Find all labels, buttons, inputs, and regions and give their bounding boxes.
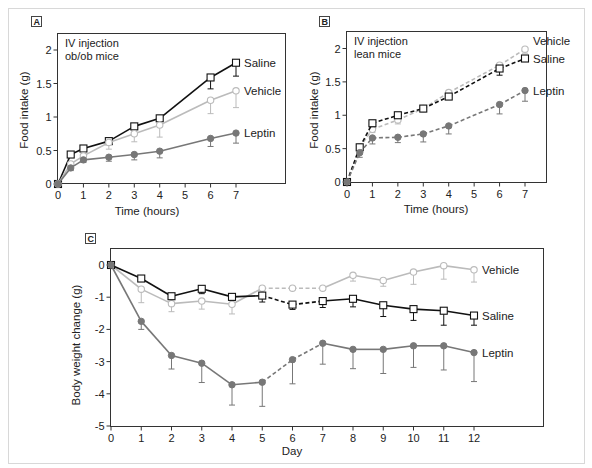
panel-b-saline-point	[394, 112, 401, 119]
panel-c-ticks: 01234567891011120-1-2-3-4-5	[95, 259, 480, 444]
panel-a-vehicle-point	[207, 97, 213, 103]
panel-b-saline-line-segment	[449, 69, 500, 97]
panel-a-leptin-point	[131, 151, 137, 157]
panel-b-legend-saline: Saline	[533, 53, 565, 65]
panel-a-leptin-point	[106, 154, 112, 160]
panel-a-legend-vehicle: Vehicle	[244, 85, 281, 97]
panel-c-ytick-label: -2	[95, 323, 105, 335]
panel-c-saline-point	[289, 301, 296, 308]
panel-c-vehicle-point	[168, 300, 174, 306]
panel-c-ytick-label: -5	[95, 420, 105, 432]
panel-a-saline-point	[131, 123, 138, 130]
panel-a-xtick-label: 7	[233, 189, 239, 201]
panel-a-ylabel: Food intake (g)	[18, 71, 30, 149]
panel-c-saline-line-segment	[414, 309, 444, 311]
panel-b-saline-point	[522, 55, 529, 62]
panel-c-vehicle-line-segment	[414, 266, 444, 272]
panel-a-leptin-line-segment	[160, 138, 211, 151]
panel-c-leptin-line-segment	[262, 360, 292, 383]
panel-b-ytick-label: 1	[334, 109, 340, 121]
panel-c-saline-point	[198, 285, 205, 292]
panel-a-saline-point	[67, 151, 74, 158]
panel-c-leptin-point	[138, 318, 144, 324]
panel-c-saline-point	[380, 302, 387, 309]
panel-a-xtick-label: 3	[131, 189, 137, 201]
panel-b-leptin-point	[395, 134, 401, 140]
panel-c-xtick-label: 5	[259, 432, 265, 444]
panel-b-leptin-point	[344, 179, 350, 185]
panel-b-leptin-point	[369, 135, 375, 141]
panel-c-xlabel: Day	[282, 445, 303, 457]
panel-a-leptin-line-segment	[211, 133, 236, 138]
panel-b-xtick-label: 2	[395, 188, 401, 200]
panel-b-leptin-line-segment	[347, 153, 360, 182]
panel-c-vehicle-point	[199, 298, 205, 304]
panel-c-vehicle-point	[441, 262, 447, 268]
panel-c-ytick-label: 0	[98, 259, 104, 271]
panel-b-xtick-label: 0	[344, 188, 350, 200]
panel-c-xtick-label: 1	[138, 432, 144, 444]
panel-b-ylabel: Food intake (g)	[308, 71, 320, 149]
panel-c-saline-line-segment	[202, 289, 232, 297]
panel-a-leptin-point	[157, 148, 163, 154]
panel-c-vehicle-point	[138, 286, 144, 292]
panel-c-legend-vehicle: Vehicle	[482, 264, 519, 276]
panel-c-leptin-line-segment	[232, 382, 262, 385]
panel-a-vehicle-point	[157, 122, 163, 128]
panel-c-saline-point	[440, 307, 447, 314]
panel-a-xtick-label: 6	[208, 189, 214, 201]
panel-a-series: SalineVehicleLeptin	[55, 57, 282, 188]
panel-c-xtick-label: 3	[199, 432, 205, 444]
panel-a-xtick-label: 5	[182, 189, 188, 201]
panel-b-saline-point	[420, 105, 427, 112]
panel-a-series-leptin: Leptin	[55, 127, 276, 187]
panel-c-legend-leptin: Leptin	[482, 347, 513, 359]
panel-b-series-leptin: Leptin	[344, 85, 565, 186]
panel-b-xtick-label: 7	[522, 188, 528, 200]
panel-b-ytick-label: 0.5	[325, 143, 340, 155]
panel-b-leptin-line-segment	[372, 137, 397, 138]
panel-b-leptin-point	[420, 131, 426, 137]
panel-a-vehicle-point	[131, 131, 137, 137]
panel-b-annotation-line2: lean mice	[354, 48, 401, 60]
panel-b-legend-leptin: Leptin	[533, 85, 564, 97]
panel-c-leptin-line-segment	[172, 355, 202, 363]
panel-c-saline-line-segment	[172, 289, 202, 296]
panel-b-xtick-label: 4	[446, 188, 452, 200]
panel-c-leptin-point	[471, 349, 477, 355]
panel-b-series-saline: Saline	[344, 53, 565, 186]
panel-a-vehicle-line-segment	[211, 91, 236, 100]
panel-c-leptin-line-segment	[444, 346, 474, 353]
panel-c-vehicle-line-segment	[202, 301, 232, 304]
panel-c-xtick-label: 12	[468, 432, 480, 444]
panel-c-xtick-label: 8	[350, 432, 356, 444]
panel-b-xtick-label: 5	[471, 188, 477, 200]
panel-c-saline-point	[138, 275, 145, 282]
panel-b-label: B	[322, 17, 329, 27]
panel-b-vehicle-point	[522, 46, 528, 52]
panel-c-vehicle-point	[259, 285, 265, 291]
panel-b: B IV injection lean mice Time (hours) Fo…	[308, 17, 570, 216]
panel-b-saline-point	[445, 93, 452, 100]
panel-b-leptin-point	[496, 101, 502, 107]
panel-c-xtick-label: 10	[407, 432, 419, 444]
panel-c-leptin-line-segment	[141, 321, 171, 355]
panel-a-leptin-point	[207, 135, 213, 141]
panel-c-saline-line-segment	[262, 296, 292, 305]
panel-c-vehicle-line-segment	[353, 275, 383, 280]
panel-c-saline-line-segment	[141, 279, 171, 297]
panel-c-label: C	[88, 234, 95, 244]
panel-c-vehicle-point	[380, 277, 386, 283]
panel-a-annotation-line1: IV injection	[65, 37, 119, 49]
panel-c-leptin-line-segment	[383, 346, 413, 350]
panel-c-saline-line-segment	[293, 301, 323, 305]
panel-c-saline-point	[319, 298, 326, 305]
panel-c-series-leptin: Leptin	[108, 262, 514, 407]
panel-b-saline-point	[496, 65, 503, 72]
panel-c-saline-point	[229, 293, 236, 300]
panel-c-leptin-point	[108, 262, 114, 268]
panel-b-leptin-point	[357, 149, 363, 155]
panel-c-ytick-label: -4	[95, 388, 105, 400]
panel-b-xtick-label: 1	[369, 188, 375, 200]
panel-a-leptin-point	[233, 130, 239, 136]
